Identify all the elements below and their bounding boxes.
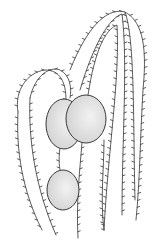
leaf-tick <box>43 200 46 201</box>
leaf-tick <box>89 74 92 75</box>
leaf-tick <box>100 194 103 195</box>
branch <box>30 69 71 98</box>
leaf-tick <box>141 32 144 33</box>
leaf-tick <box>109 134 112 135</box>
leaf-tick <box>99 41 102 42</box>
leaf-tick <box>100 201 103 202</box>
leaf-tick <box>67 75 70 76</box>
leaf-tick <box>100 215 103 216</box>
leaf-tick <box>35 71 38 72</box>
leaf-tick <box>103 35 106 36</box>
leaf-tick <box>106 161 109 162</box>
leaf-tick <box>105 175 108 176</box>
leaf-tick <box>86 88 89 89</box>
leaf-tick <box>105 182 108 183</box>
leaf-tick <box>50 220 53 221</box>
leaf-tick <box>88 81 91 82</box>
leaf-tick <box>38 179 41 180</box>
leaf-tick <box>92 61 95 62</box>
leaf-tick <box>106 168 109 169</box>
leaf-tick <box>90 27 93 28</box>
leaf-tick <box>82 38 85 39</box>
leaf-tick <box>138 25 141 26</box>
leaf-tick <box>53 226 56 227</box>
leaf-tick <box>62 70 64 71</box>
leaf-tick <box>73 57 76 58</box>
leaf-tick <box>42 69 45 70</box>
leaf-tick <box>55 232 58 233</box>
branch <box>18 112 42 230</box>
leaf-tick <box>91 67 94 68</box>
leaf-tick <box>107 155 110 156</box>
leaf-tick <box>86 33 89 34</box>
leaf-tick <box>130 14 133 15</box>
leaf-tick <box>135 19 138 20</box>
leaf-tick <box>17 91 20 92</box>
leaf-tick <box>100 208 103 209</box>
leaf-tick <box>29 74 32 75</box>
leaf-tick <box>108 141 111 142</box>
leaf-tick <box>143 39 146 40</box>
leaf-tick <box>113 11 116 12</box>
leaf-tick <box>69 81 72 82</box>
leaf-tick <box>31 138 33 139</box>
branch <box>102 140 104 230</box>
leaf-tick <box>100 187 103 188</box>
leaf-tick <box>97 47 100 48</box>
leaf-tick <box>33 152 36 153</box>
leaf-tick <box>32 145 34 146</box>
leaf-tick <box>94 54 97 55</box>
leaf-tick <box>108 148 111 149</box>
leaf-tick <box>95 22 98 23</box>
leaf-tick <box>100 17 103 18</box>
leaf-tick <box>144 46 147 47</box>
leaf-tick <box>107 29 110 30</box>
leaf-tick <box>100 180 103 181</box>
leaf-tick <box>30 131 33 132</box>
capsule-right <box>66 95 106 143</box>
leaf-tick <box>35 166 38 167</box>
leaf-tick <box>48 213 51 214</box>
leaf-tick <box>103 203 106 204</box>
leaf-tick <box>113 25 116 26</box>
leaf-tick <box>36 173 39 174</box>
leaf-tick <box>24 79 27 80</box>
leaf-tick <box>34 159 37 160</box>
leaf-tick <box>104 196 107 197</box>
leaf-tick <box>45 206 48 207</box>
leaf-tick <box>76 51 79 52</box>
capsule-lower <box>47 170 79 210</box>
leaf-tick <box>70 63 73 64</box>
branch <box>59 148 60 170</box>
illustration <box>0 0 157 245</box>
leaf-tick <box>20 85 23 86</box>
leaf-tick <box>104 189 107 190</box>
leaf-tick <box>79 45 82 46</box>
leaf-tick <box>40 186 43 187</box>
leaf-tick <box>106 13 109 14</box>
leaf-tick <box>41 193 44 194</box>
